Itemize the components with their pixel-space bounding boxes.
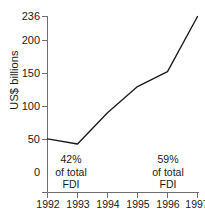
x-tick-label: 1995 — [121, 198, 155, 210]
annotation-right-line-3: FDI — [137, 178, 199, 191]
data-series-line — [48, 17, 198, 145]
x-tick-label: 1997 — [180, 198, 205, 210]
annotation-right-line-2: of total — [137, 166, 199, 179]
annotation-left-line-3: FDI — [40, 178, 102, 191]
x-tick-label: 1992 — [31, 198, 65, 210]
annotation-right: 59% of total FDI — [137, 153, 199, 191]
x-axis-tick-labels: 1992 1993 1994 1995 1996 1997 — [0, 198, 205, 216]
annotation-left-line-1: 42% — [40, 153, 102, 166]
x-tick-label: 1994 — [91, 198, 125, 210]
annotation-left-line-2: of total — [40, 166, 102, 179]
line-chart: US$ billions 236 200 150 100 50 0 — [0, 0, 205, 222]
x-tick-label: 1993 — [61, 198, 95, 210]
annotation-left: 42% of total FDI — [40, 153, 102, 191]
annotation-right-line-1: 59% — [137, 153, 199, 166]
